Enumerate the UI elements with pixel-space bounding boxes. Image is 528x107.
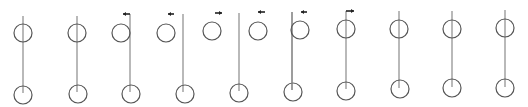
figure-11 <box>496 10 514 97</box>
top-circle <box>112 24 130 42</box>
bottom-circle <box>391 80 409 98</box>
flag-left-icon <box>123 12 130 16</box>
marker-head <box>351 9 354 13</box>
marker-head <box>258 10 261 14</box>
bottom-circle <box>69 85 87 103</box>
top-circle <box>203 22 221 40</box>
bottom-circle <box>284 83 302 101</box>
figure-1 <box>14 16 32 104</box>
figure-8 <box>337 9 355 100</box>
arrow-left-icon <box>168 12 174 16</box>
marker-head <box>123 12 126 16</box>
flag-right-icon <box>346 9 354 13</box>
arrow-left-icon <box>258 10 265 14</box>
figure-5 <box>203 11 248 102</box>
top-circle <box>249 22 267 40</box>
diagram-canvas <box>0 0 528 107</box>
top-circle <box>157 24 175 42</box>
top-circle <box>291 21 309 39</box>
figure-3 <box>112 12 140 103</box>
marker-head <box>219 11 222 15</box>
figure-9 <box>390 11 409 98</box>
marker-head <box>301 10 304 14</box>
bottom-circle <box>176 85 194 103</box>
figure-4 <box>157 12 194 103</box>
figure-10 <box>443 11 461 97</box>
marker-head <box>168 12 171 16</box>
bottom-circle <box>122 85 140 103</box>
arrow-left-icon <box>301 10 307 14</box>
pendulum-sequence-diagram <box>0 0 528 107</box>
figure-7 <box>291 10 309 90</box>
figure-2 <box>68 16 87 103</box>
arrow-right-icon <box>215 11 222 15</box>
